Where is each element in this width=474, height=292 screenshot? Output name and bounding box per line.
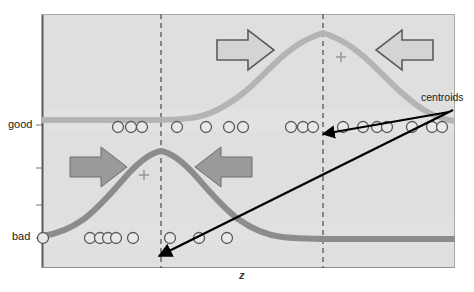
data-point (128, 233, 139, 244)
data-point (437, 122, 448, 133)
y-axis-ticks (36, 125, 42, 238)
data-point (126, 122, 137, 133)
data-point (238, 122, 249, 133)
data-point (308, 122, 319, 133)
figure-canvas: good bad centroids z (0, 0, 474, 292)
data-point (172, 122, 183, 133)
data-point (224, 122, 235, 133)
data-point (201, 122, 212, 133)
data-point (137, 122, 148, 133)
x-axis-label: z (239, 270, 245, 281)
y-axis-label-bad: bad (12, 231, 30, 242)
y-axis-label-good: good (8, 119, 32, 130)
data-point (113, 122, 124, 133)
data-point (286, 122, 297, 133)
data-point (38, 233, 49, 244)
data-point (111, 233, 122, 244)
concept-diagram-svg (0, 0, 474, 292)
data-point (222, 233, 233, 244)
data-point (165, 233, 176, 244)
centroids-annotation-label: centroids (421, 92, 464, 103)
data-point (85, 233, 96, 244)
